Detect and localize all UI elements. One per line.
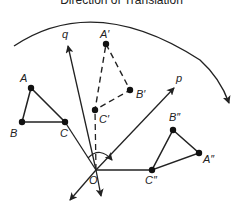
point-A [28, 85, 34, 91]
point-B2 [170, 127, 176, 133]
label-B1: B′ [136, 88, 146, 100]
line-p [96, 88, 174, 170]
direction-arc-arrow [14, 22, 229, 103]
label-q: q [62, 28, 69, 40]
line-q [68, 46, 96, 170]
line-OC1-dashed [95, 110, 96, 170]
point-B [19, 119, 25, 125]
point-B1 [127, 87, 133, 93]
translation-diagram: A B C A′ B′ C′ A″ B″ C″ p q O [0, 0, 243, 215]
rotation-arc [88, 152, 112, 160]
triangle-ABC [22, 88, 65, 122]
point-C [62, 119, 68, 125]
point-C2 [149, 167, 155, 173]
label-A: A [19, 72, 27, 84]
label-C2: C″ [145, 174, 158, 186]
label-C: C [60, 127, 68, 139]
triangle-A1B1C1 [95, 44, 130, 110]
triangle-A2B2C2 [152, 130, 199, 170]
label-O: O [89, 174, 98, 186]
point-C1 [92, 107, 98, 113]
label-B: B [10, 127, 17, 139]
point-A1 [103, 41, 109, 47]
label-p: p [175, 72, 182, 84]
label-A1: A′ [99, 28, 110, 40]
label-A2: A″ [202, 153, 215, 165]
label-C1: C′ [99, 113, 110, 125]
line-OC [65, 122, 96, 170]
point-A2 [196, 150, 202, 156]
label-B2: B″ [169, 111, 181, 123]
